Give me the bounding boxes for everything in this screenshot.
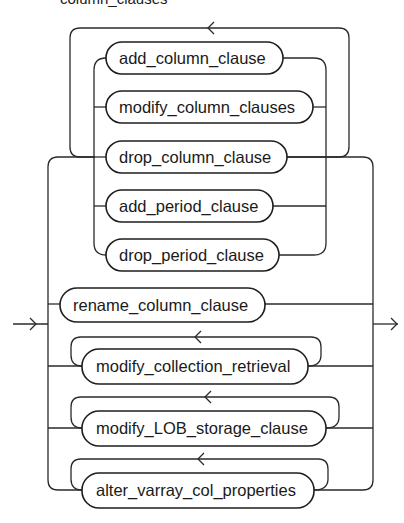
pill-modify-lob-storage-clause[interactable]: modify_LOB_storage_clause: [82, 411, 326, 446]
svg-text:rename_column_clause: rename_column_clause: [73, 296, 248, 315]
svg-text:drop_column_clause: drop_column_clause: [119, 148, 271, 167]
pill-modify-column-clauses[interactable]: modify_column_clauses: [106, 91, 313, 123]
pill-modify-collection-retrieval[interactable]: modify_collection_retrieval: [82, 349, 308, 384]
pill-rename-column-clause[interactable]: rename_column_clause: [60, 288, 265, 322]
diagram-title: column_clauses: [60, 0, 168, 7]
pill-add-column-clause[interactable]: add_column_clause: [106, 42, 283, 74]
entry-arrow-icon: [13, 318, 48, 330]
syntax-diagram: column_clauses: [0, 0, 404, 523]
svg-text:drop_period_clause: drop_period_clause: [119, 246, 264, 265]
exit-arrow-icon: [373, 318, 398, 330]
svg-text:alter_varray_col_properties: alter_varray_col_properties: [96, 481, 296, 500]
pill-alter-varray-col-properties[interactable]: alter_varray_col_properties: [82, 473, 314, 508]
svg-text:modify_collection_retrieval: modify_collection_retrieval: [96, 357, 290, 376]
pill-drop-column-clause[interactable]: drop_column_clause: [106, 141, 287, 173]
pill-add-period-clause[interactable]: add_period_clause: [106, 190, 273, 222]
svg-text:modify_LOB_storage_clause: modify_LOB_storage_clause: [96, 419, 308, 438]
svg-text:modify_column_clauses: modify_column_clauses: [119, 98, 295, 117]
pill-drop-period-clause[interactable]: drop_period_clause: [106, 239, 279, 271]
svg-text:add_period_clause: add_period_clause: [119, 197, 258, 216]
svg-text:add_column_clause: add_column_clause: [119, 49, 266, 68]
